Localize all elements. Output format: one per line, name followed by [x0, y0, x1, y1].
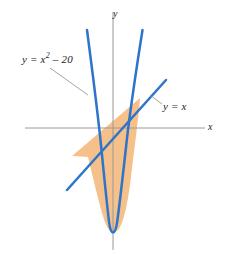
- y-axis-label: y: [113, 9, 117, 19]
- parabola-label-prefix: y = x: [22, 53, 46, 65]
- plot-canvas: [0, 0, 226, 254]
- line-label: y = x: [163, 101, 187, 112]
- parabola-label: y = x2 – 20: [22, 52, 73, 65]
- parabola-label-suffix: – 20: [50, 53, 73, 65]
- line-leader-line: [150, 95, 162, 104]
- figure-container: y = x2 – 20 y = x y x: [0, 0, 226, 254]
- parabola-leader-line: [50, 68, 88, 95]
- x-axis-label: x: [208, 122, 212, 132]
